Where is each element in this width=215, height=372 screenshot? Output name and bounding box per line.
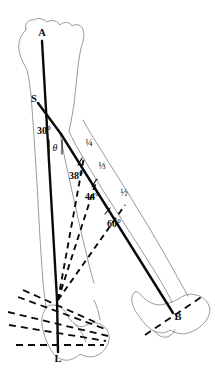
main-axis-A-to-ankle bbox=[42, 41, 57, 299]
point-label-A: A bbox=[38, 27, 46, 38]
figure-root: A S B L 30° θ 38° 44° 60° ¼ ⅓ ½ bbox=[0, 0, 215, 372]
fraction-label-one-half: ½ bbox=[120, 188, 127, 198]
angle-label-theta: θ bbox=[53, 142, 58, 153]
axis-ankle-to-L bbox=[57, 299, 58, 352]
point-label-S: S bbox=[31, 93, 37, 104]
tibia-bone-outline bbox=[60, 120, 188, 302]
angle-label-38: 38° bbox=[69, 170, 83, 181]
angle-label-30: 30° bbox=[37, 125, 51, 136]
point-label-L: L bbox=[54, 353, 61, 364]
foot-outline bbox=[42, 300, 109, 360]
angle-label-60: 60° bbox=[107, 218, 121, 229]
axis-lines-group bbox=[38, 41, 173, 352]
angle-label-44: 44° bbox=[85, 191, 99, 202]
limb-angle-diagram: A S B L 30° θ 38° 44° 60° ¼ ⅓ ½ bbox=[0, 0, 215, 372]
femur-bone-outline bbox=[19, 19, 84, 308]
fraction-label-one-quarter: ¼ bbox=[85, 138, 92, 148]
point-label-B: B bbox=[174, 311, 181, 322]
fraction-label-one-third: ⅓ bbox=[98, 161, 105, 171]
